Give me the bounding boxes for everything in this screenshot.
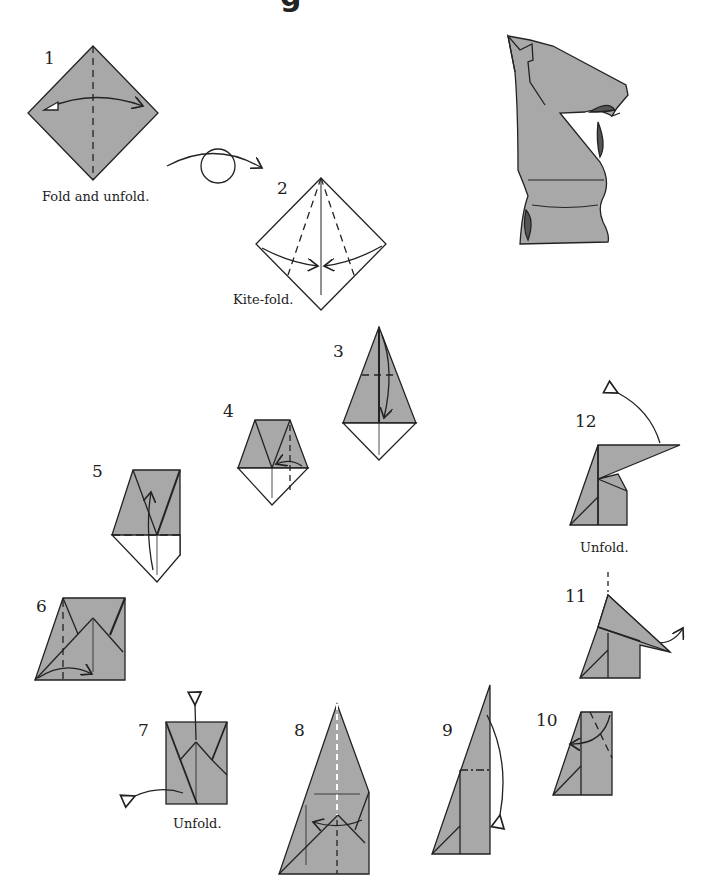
- step-6-diagram: [35, 598, 125, 680]
- final-knight-model: [508, 36, 628, 244]
- step-9-number: 9: [442, 720, 453, 740]
- step-4-number: 4: [223, 401, 234, 421]
- step-5-diagram: [112, 470, 180, 582]
- step-1-number: 1: [44, 48, 55, 68]
- diagram-canvas: [0, 0, 710, 884]
- step-3-number: 3: [333, 341, 344, 361]
- step-7-number: 7: [138, 720, 149, 740]
- step-6-number: 6: [36, 596, 47, 616]
- step-2-number: 2: [277, 178, 288, 198]
- turn-over-symbol: [167, 149, 262, 183]
- step-2-diagram: [256, 178, 386, 310]
- step-1-caption: Fold and unfold.: [42, 189, 149, 204]
- step-9-diagram: [432, 685, 503, 854]
- step-2-caption: Kite-fold.: [233, 292, 293, 307]
- step-4-diagram: [238, 420, 308, 505]
- step-8-number: 8: [294, 720, 305, 740]
- step-11-diagram: [580, 572, 683, 678]
- step-12-caption: Unfold.: [580, 540, 629, 555]
- step-12-number: 12: [575, 411, 597, 431]
- step-7-caption: Unfold.: [173, 816, 222, 831]
- step-11-number: 11: [565, 586, 587, 606]
- step-10-diagram: [553, 712, 612, 795]
- step-3-diagram: [343, 327, 416, 460]
- step-10-number: 10: [536, 710, 558, 730]
- step-8-diagram: [279, 704, 369, 874]
- step-5-number: 5: [92, 461, 103, 481]
